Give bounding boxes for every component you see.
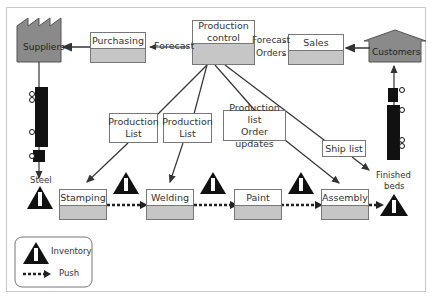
inventory-icon-finished	[380, 194, 408, 216]
inventory-icon-2	[200, 172, 226, 194]
customer-truck-icon	[387, 88, 405, 161]
process-stamping[interactable]: Stamping	[59, 189, 107, 220]
legend-inventory-label: Inventory	[51, 246, 92, 256]
inventory-icon-3	[288, 172, 314, 194]
production-control-label-1: Production	[198, 20, 249, 32]
sales-label: Sales	[289, 35, 343, 50]
inventory-icon-1	[113, 172, 139, 194]
finished-beds-label-2: beds	[384, 181, 404, 191]
sales-box[interactable]: Sales	[288, 34, 344, 65]
customers-house-icon	[364, 30, 426, 62]
orders-label: Orders	[256, 48, 286, 58]
ship-list-note: Ship list	[322, 140, 366, 157]
finished-beds-label-1: Finished	[376, 170, 411, 180]
production-list-note-2: ProductionList	[163, 113, 212, 143]
process-assembly[interactable]: Assembly	[321, 189, 369, 220]
forecast-label-right: Forecast	[252, 35, 290, 45]
purchasing-label: Purchasing	[91, 33, 145, 48]
process-paint[interactable]: Paint	[234, 189, 282, 220]
forecast-label-left: Forecast	[154, 40, 194, 51]
inventory-icon-steel	[27, 186, 53, 209]
suppliers-factory-icon	[17, 18, 61, 62]
supplier-truck-icon	[30, 87, 49, 162]
production-list-note-1: ProductionList	[109, 113, 158, 143]
legend-push-label: Push	[59, 268, 79, 278]
purchasing-box[interactable]: Purchasing	[90, 32, 146, 63]
process-welding[interactable]: Welding	[146, 189, 194, 220]
suppliers-label: Suppliers	[23, 42, 65, 52]
production-control-label-2: control	[207, 32, 240, 44]
production-list-order-updates-note: Production listOrder updates	[223, 110, 286, 141]
production-control-box[interactable]: Production control	[192, 20, 255, 65]
steel-label: Steel	[30, 175, 52, 185]
customers-label: Customers	[372, 47, 420, 57]
